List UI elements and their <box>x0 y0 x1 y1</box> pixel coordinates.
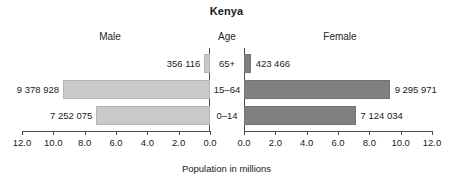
x-tick-label: 0.0 <box>227 137 261 148</box>
x-tick <box>369 131 370 135</box>
value-label-male-15-64: 9 378 928 <box>0 80 59 99</box>
x-tick-label: 10.0 <box>384 137 418 148</box>
bar-female-0-14 <box>244 106 356 125</box>
value-label-female-0-14: 7 124 034 <box>361 106 403 125</box>
x-tick-label: 2.0 <box>162 137 196 148</box>
x-tick-label: 6.0 <box>321 137 355 148</box>
x-tick-label: 12.0 <box>5 137 39 148</box>
bar-female-65plus <box>244 54 251 73</box>
value-label-female-15-64: 9 295 971 <box>395 80 437 99</box>
x-tick <box>401 131 402 135</box>
column-header-age: Age <box>197 31 257 42</box>
x-tick-label: 6.0 <box>99 137 133 148</box>
x-tick <box>116 131 117 135</box>
bar-male-15-64 <box>63 80 210 99</box>
x-tick-label: 2.0 <box>258 137 292 148</box>
x-tick <box>210 131 211 135</box>
x-tick <box>244 131 245 135</box>
x-tick-label: 8.0 <box>352 137 386 148</box>
value-label-female-65plus: 423 466 <box>256 54 290 73</box>
chart-title: Kenya <box>0 5 453 17</box>
x-tick-label: 4.0 <box>130 137 164 148</box>
x-tick <box>53 131 54 135</box>
column-header-female: Female <box>300 31 380 42</box>
x-tick <box>275 131 276 135</box>
value-label-male-65plus: 356 116 <box>0 54 200 73</box>
x-tick-label: 10.0 <box>36 137 70 148</box>
age-label-0-14: 0–14 <box>210 106 244 125</box>
x-tick <box>22 131 23 135</box>
bar-female-15-64 <box>244 80 390 99</box>
x-tick <box>338 131 339 135</box>
x-tick-label: 0.0 <box>193 137 227 148</box>
x-tick-label: 12.0 <box>415 137 449 148</box>
x-tick <box>85 131 86 135</box>
x-tick <box>307 131 308 135</box>
age-label-15-64: 15–64 <box>210 80 244 99</box>
bar-male-0-14 <box>96 106 210 125</box>
x-axis-title: Population in millions <box>0 163 453 174</box>
value-label-male-0-14: 7 252 075 <box>0 106 92 125</box>
population-pyramid-chart: Kenya Male Age Female 356 116 9 378 928 … <box>0 0 453 185</box>
x-tick <box>179 131 180 135</box>
x-tick <box>147 131 148 135</box>
x-tick-label: 4.0 <box>290 137 324 148</box>
column-header-male: Male <box>70 31 150 42</box>
x-tick-label: 8.0 <box>68 137 102 148</box>
x-tick <box>432 131 433 135</box>
age-label-65plus: 65+ <box>210 54 244 73</box>
